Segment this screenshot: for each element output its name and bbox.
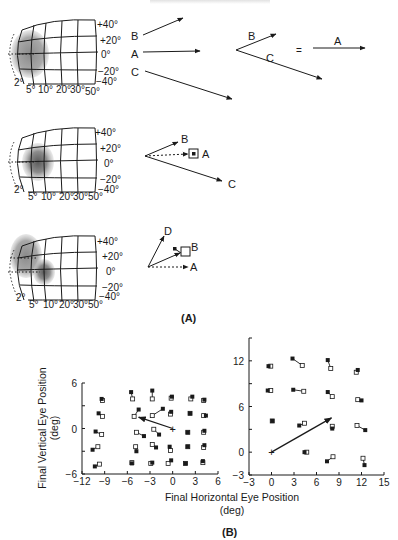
data-point-pair — [202, 443, 207, 449]
filled-square-marker — [161, 407, 165, 411]
origin-plus-icon: + — [268, 446, 274, 458]
panel-label-b: (B) — [222, 526, 238, 538]
open-square-marker — [100, 433, 104, 437]
open-square-marker — [134, 430, 138, 434]
filled-square-marker — [291, 388, 295, 392]
data-point-pair — [297, 421, 306, 427]
data-point-pair — [354, 368, 360, 374]
svg-text:10°: 10° — [41, 191, 56, 202]
panel-label-a: (A) — [181, 312, 197, 324]
open-square-marker — [300, 363, 304, 367]
filled-square-marker — [325, 459, 329, 463]
svg-text:=: = — [296, 45, 302, 56]
x-tick-label: 6 — [215, 476, 221, 487]
filled-square-marker — [270, 419, 274, 423]
data-point-pair — [134, 430, 146, 438]
origin-plus-icon: + — [169, 423, 175, 435]
data-point-pair — [267, 364, 273, 368]
filled-square-marker — [130, 461, 134, 465]
filled-square-marker — [100, 397, 104, 401]
svg-text:50°: 50° — [88, 299, 103, 310]
open-square-marker — [303, 421, 307, 425]
svg-text:5°: 5° — [28, 191, 38, 202]
x-tick-label: 0 — [170, 476, 176, 487]
filled-square-marker — [326, 358, 330, 362]
filled-square-marker — [303, 450, 307, 454]
filled-square-marker — [93, 464, 97, 468]
filled-square-marker — [297, 424, 301, 428]
svg-text:B: B — [181, 133, 188, 145]
x-tick-label: 15 — [378, 477, 390, 488]
y-tick-label: 12 — [233, 356, 245, 367]
filled-square-marker — [186, 430, 190, 434]
data-point-pair — [270, 419, 274, 423]
open-square-marker — [302, 389, 306, 393]
x-tick-label: 6 — [314, 477, 320, 488]
data-point-pair — [100, 397, 105, 403]
svg-text:30°: 30° — [70, 84, 85, 95]
scatter-plot-left: −12−9−6−3036−606+ — [66, 378, 222, 487]
svg-text:10°: 10° — [43, 299, 58, 310]
data-point-pair — [330, 424, 334, 430]
x-axis-title-line2: (deg) — [220, 504, 245, 516]
x-tick-label: −6 — [122, 476, 134, 487]
scatter-plot-right: −303691215−30612+ — [233, 338, 390, 488]
open-square-marker — [355, 424, 359, 428]
open-square-marker — [361, 456, 365, 460]
svg-text:+20°: +20° — [100, 143, 121, 154]
svg-text:2°: 2° — [14, 77, 24, 88]
open-square-marker — [134, 445, 138, 449]
data-point-pair — [186, 430, 190, 434]
filled-square-marker — [157, 433, 161, 437]
data-point-pair — [166, 458, 173, 465]
x-tick-label: −3 — [144, 476, 156, 487]
svg-text:B: B — [191, 241, 198, 253]
open-square-marker — [100, 414, 104, 418]
y-tick-label: 6 — [238, 402, 244, 413]
open-square-marker — [331, 455, 335, 459]
filled-square-marker — [150, 389, 154, 393]
svg-text:30°: 30° — [73, 299, 88, 310]
svg-text:+20°: +20° — [102, 251, 123, 262]
svg-text:+40°: +40° — [97, 19, 118, 30]
svg-text:0°: 0° — [106, 266, 116, 277]
x-axis-title-line1: Final Horizontal Eye Position — [165, 491, 299, 503]
y-tick-label: 6 — [71, 378, 77, 389]
data-point-pair — [356, 398, 364, 403]
data-point-pair — [291, 388, 306, 394]
svg-text:20°: 20° — [59, 191, 74, 202]
data-point-pair — [291, 357, 305, 368]
open-square-marker — [150, 397, 154, 401]
y-tick-label: 0 — [238, 447, 244, 458]
filled-square-marker — [186, 445, 190, 449]
x-tick-label: −9 — [99, 476, 111, 487]
filled-square-marker — [363, 463, 367, 467]
data-point-pair — [201, 459, 205, 465]
open-square-marker — [330, 395, 334, 399]
y-tick-label: −6 — [66, 469, 78, 480]
filled-square-marker — [202, 429, 206, 433]
filled-square-marker — [169, 458, 173, 462]
svg-text:A: A — [131, 48, 139, 60]
open-square-marker — [132, 414, 136, 418]
svg-text:10°: 10° — [38, 84, 53, 95]
open-square-marker — [168, 448, 172, 452]
filled-square-marker — [190, 395, 194, 399]
x-tick-label: 3 — [291, 477, 297, 488]
data-point-pair — [97, 411, 105, 418]
filled-square-marker — [202, 443, 206, 447]
data-point-pair — [189, 395, 195, 401]
data-point-pair — [355, 424, 367, 433]
x-tick-label: 0 — [269, 477, 275, 488]
svg-text:A: A — [202, 148, 210, 160]
filled-square-marker — [154, 445, 158, 449]
svg-text:+20°: +20° — [100, 35, 121, 46]
target-square-icon — [181, 247, 190, 256]
filled-square-marker — [204, 414, 208, 418]
data-point-pair — [326, 390, 335, 399]
filled-square-marker — [150, 461, 154, 465]
svg-text:+40°: +40° — [97, 236, 118, 247]
data-point-pair — [303, 450, 309, 454]
data-point-pair — [202, 398, 207, 403]
filled-square-marker — [360, 398, 364, 402]
